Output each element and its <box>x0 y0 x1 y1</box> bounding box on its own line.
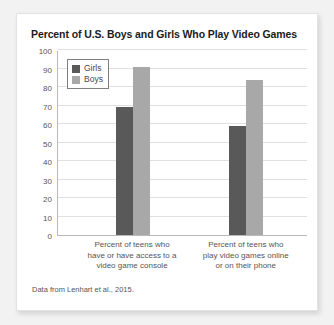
y-tick-label: 80 <box>43 84 52 93</box>
y-tick-label: 30 <box>43 176 52 185</box>
x-category-label-line: or on their phone <box>180 261 312 272</box>
x-category-label-line: video game console <box>66 261 198 272</box>
y-tick-label: 40 <box>43 158 52 167</box>
x-category-label-1: Percent of teens whohave or have access … <box>66 240 198 272</box>
legend-item-boys: Boys <box>72 74 103 85</box>
y-tick-label: 50 <box>43 139 52 148</box>
gridline <box>58 216 307 217</box>
y-tick-label: 90 <box>43 65 52 74</box>
page-title: Percent of U.S. Boys and Girls Who Play … <box>31 28 311 40</box>
chart-card: Percent of U.S. Boys and Girls Who Play … <box>16 13 318 311</box>
x-category-label-line: Percent of teens who <box>180 240 312 251</box>
y-tick-label: 70 <box>43 102 52 111</box>
y-tick-label: 10 <box>43 213 52 222</box>
gridline <box>58 142 307 143</box>
x-category-label-line: have or have access to a <box>66 251 198 262</box>
plot-area: Girls Boys <box>57 51 307 236</box>
gridline <box>58 123 307 124</box>
gridline <box>58 105 307 106</box>
y-tick-label: 60 <box>43 121 52 130</box>
bar-group <box>116 51 150 235</box>
bar-group <box>229 51 263 235</box>
chart-legend: Girls Boys <box>67 59 109 89</box>
gridline <box>58 160 307 161</box>
x-axis-category-labels: Percent of teens whohave or have access … <box>57 240 307 280</box>
x-category-label-2: Percent of teens whoplay video games onl… <box>180 240 312 272</box>
bar-boys-2[interactable] <box>246 80 263 235</box>
chart-plot-wrapper: 1009080706050403020100 Girls Boys Percen… <box>31 51 307 256</box>
legend-label-girls: Girls <box>84 63 101 74</box>
legend-label-boys: Boys <box>84 74 103 85</box>
x-category-label-line: play video games online <box>180 251 312 262</box>
x-category-label-line: Percent of teens who <box>66 240 198 251</box>
legend-item-girls: Girls <box>72 63 103 74</box>
legend-swatch-icon-girls <box>72 65 80 73</box>
bar-boys-1[interactable] <box>133 67 150 235</box>
y-tick-label: 20 <box>43 195 52 204</box>
gridline <box>58 179 307 180</box>
y-tick-label: 100 <box>39 47 52 56</box>
gridline <box>58 197 307 198</box>
gridline <box>58 49 307 50</box>
bar-girls-2[interactable] <box>229 126 246 235</box>
source-note: Data from Lenhart et al., 2015. <box>32 285 134 294</box>
legend-swatch-icon-boys <box>72 76 80 84</box>
y-tick-label: 0 <box>48 232 52 241</box>
y-axis: 1009080706050403020100 <box>31 51 55 236</box>
bar-girls-1[interactable] <box>116 107 133 235</box>
